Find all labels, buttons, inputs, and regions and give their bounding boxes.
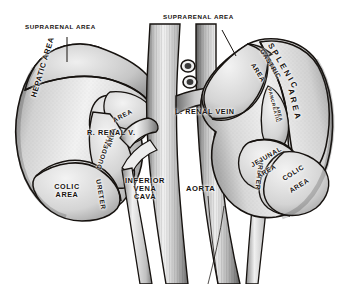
vessel-lumen-upper — [185, 63, 192, 69]
vessel-lumen-lower — [187, 79, 194, 85]
kidney-diagram-svg — [0, 0, 345, 284]
anatomical-figure: SUPRARENAL AREA SUPRARENAL AREA HEPATIC … — [0, 0, 345, 284]
